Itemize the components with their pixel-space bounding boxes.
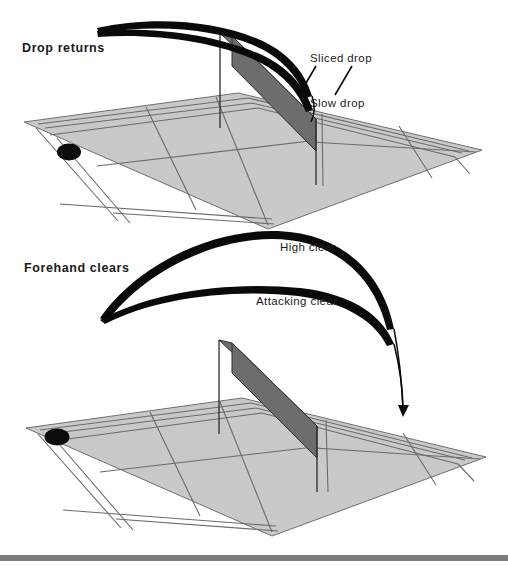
panel-forehand-clears: Forehand clears High clear Attacking cle… — [24, 231, 486, 536]
label-high-clear: High clear — [280, 241, 336, 253]
court-surface-top — [24, 93, 482, 229]
badminton-shot-diagram: Drop returns Sliced drop Slow drop — [0, 0, 508, 566]
trajectory-attacking-clear — [100, 286, 394, 346]
player-marker-bottom — [45, 429, 70, 446]
court-line-right-corner-bottom — [458, 464, 474, 481]
panel-title-drop-returns: Drop returns — [22, 41, 105, 55]
panel-title-forehand-clears: Forehand clears — [24, 261, 130, 275]
court-line-right-corner-top — [455, 157, 470, 174]
label-slow-drop: Slow drop — [310, 97, 365, 109]
label-sliced-drop: Sliced drop — [310, 52, 372, 64]
player-marker-top — [57, 144, 81, 161]
label-attacking-clear: Attacking clear — [256, 295, 337, 307]
trajectory-high-clear — [100, 231, 394, 330]
landing-arrowhead-bottom — [398, 405, 409, 417]
trajectory-high-clear-tail — [394, 329, 403, 410]
panel-drop-returns: Drop returns Sliced drop Slow drop — [22, 21, 482, 229]
footer-divider-bar — [0, 555, 508, 561]
leader-line-slow-drop — [335, 66, 352, 95]
court-surface-bottom — [26, 398, 486, 536]
